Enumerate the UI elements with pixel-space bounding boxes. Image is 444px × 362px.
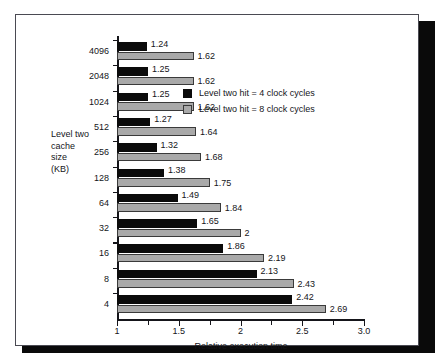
bar-hit8 — [117, 305, 326, 314]
bar-value-label: 1.49 — [182, 190, 200, 200]
x-axis-major-tick — [364, 321, 365, 326]
category-label: 4 — [104, 299, 109, 309]
bar-hit8 — [117, 229, 241, 238]
legend-entry: Level two hit = 8 clock cycles — [183, 104, 315, 114]
x-axis-minor-tick — [148, 321, 149, 325]
bar-hit4 — [117, 93, 148, 102]
bar-value-label: 1.86 — [227, 241, 245, 251]
legend-swatch-light — [183, 105, 192, 114]
bar-group: 20481.251.62 — [117, 65, 407, 88]
legend-entry: Level two hit = 4 clock cycles — [183, 88, 315, 98]
bar-value-label: 2.13 — [261, 266, 279, 276]
y-axis-title: Level twocachesize(KB) — [51, 129, 113, 175]
bar-group: 161.862.19 — [117, 242, 407, 265]
bar-hit4 — [117, 169, 164, 178]
bar-hit4 — [117, 143, 157, 152]
x-axis-minor-tick — [210, 321, 211, 325]
y-axis-tick — [113, 192, 118, 193]
bar-value-label: 1.75 — [214, 178, 232, 188]
bar-chart-plot-area: 40961.241.6220481.251.6210241.251.625121… — [16, 15, 420, 347]
category-label: 4096 — [89, 46, 109, 56]
x-axis-tick-label: 1.5 — [172, 326, 185, 336]
y-axis-title-line: size — [51, 152, 113, 164]
bar-hit4 — [117, 270, 257, 279]
bar-value-label: 1.64 — [200, 127, 218, 137]
x-axis-minor-tick — [271, 321, 272, 325]
bar-value-label: 2.43 — [298, 279, 316, 289]
legend-label: Level two hit = 8 clock cycles — [199, 104, 315, 114]
bar-value-label: 1.68 — [205, 152, 223, 162]
bar-value-label: 2.69 — [330, 304, 348, 314]
bar-value-label: 1.62 — [198, 76, 216, 86]
category-label: 32 — [99, 223, 109, 233]
bar-hit4 — [117, 295, 292, 304]
y-axis-tick — [113, 141, 118, 142]
bar-hit4 — [117, 194, 178, 203]
category-label: 8 — [104, 274, 109, 284]
x-axis-tick-label: 3.0 — [358, 326, 371, 336]
bar-hit4 — [117, 244, 223, 253]
bar-group: 641.491.84 — [117, 192, 407, 215]
bar-group: 40961.241.62 — [117, 40, 407, 63]
y-axis-title-line: (KB) — [51, 164, 113, 176]
category-label: 2048 — [89, 71, 109, 81]
y-axis-title-line: cache — [51, 141, 113, 153]
bar-value-label: 1.27 — [154, 114, 172, 124]
figure-frame: 40961.241.6220481.251.6210241.251.625121… — [15, 14, 419, 346]
bar-group: 42.422.69 — [117, 293, 407, 316]
bar-value-label: 1.62 — [198, 51, 216, 61]
y-axis-tick — [113, 268, 118, 269]
legend-swatch-dark — [183, 89, 192, 98]
y-axis-title-line: Level two — [51, 129, 113, 141]
category-label: 1024 — [89, 97, 109, 107]
bar-value-label: 1.32 — [161, 140, 179, 150]
bar-value-label: 2.19 — [268, 253, 286, 263]
bar-hit4 — [117, 118, 150, 127]
y-axis-tick — [113, 91, 118, 92]
legend-label: Level two hit = 4 clock cycles — [199, 88, 315, 98]
bar-value-label: 1.25 — [152, 64, 170, 74]
bar-value-label: 1.38 — [168, 165, 186, 175]
bar-group: 2561.321.68 — [117, 141, 407, 164]
bar-hit8 — [117, 203, 221, 212]
x-axis-minor-tick — [333, 321, 334, 325]
bar-value-label: 1.65 — [201, 216, 219, 226]
bar-hit8 — [117, 254, 264, 263]
y-axis-tick — [113, 40, 118, 41]
bar-group: 1281.381.75 — [117, 167, 407, 190]
bar-group: 82.132.43 — [117, 268, 407, 291]
x-axis-tick-label: 1 — [114, 326, 119, 336]
y-axis-tick — [113, 242, 118, 243]
bar-hit8 — [117, 178, 210, 187]
bar-hit4 — [117, 42, 147, 51]
x-axis-major-tick — [179, 321, 180, 326]
chart-legend: Level two hit = 4 clock cyclesLevel two … — [183, 88, 315, 120]
bar-hit8 — [117, 52, 194, 61]
category-label: 16 — [99, 248, 109, 258]
x-axis-tick-label: 2.5 — [296, 326, 309, 336]
y-axis-tick — [113, 65, 118, 66]
y-axis-tick — [113, 167, 118, 168]
bar-hit4 — [117, 219, 197, 228]
x-axis-major-tick — [241, 321, 242, 326]
bar-hit8 — [117, 77, 194, 86]
bar-hit8 — [117, 279, 294, 288]
x-axis-title: Relative execution time — [117, 341, 365, 351]
bar-value-label: 1.84 — [225, 203, 243, 213]
bar-hit8 — [117, 127, 196, 136]
bar-value-label: 1.25 — [152, 89, 170, 99]
x-axis-major-tick — [117, 321, 118, 326]
bar-value-label: 2.42 — [296, 292, 314, 302]
category-label: 64 — [99, 198, 109, 208]
bar-value-label: 2 — [245, 228, 250, 238]
x-axis-tick-label: 2 — [238, 326, 243, 336]
x-axis-major-tick — [302, 321, 303, 326]
y-axis-tick — [113, 116, 118, 117]
bar-hit4 — [117, 67, 148, 76]
y-axis-tick — [113, 293, 118, 294]
bar-group: 321.652 — [117, 217, 407, 240]
bar-value-label: 1.24 — [151, 39, 169, 49]
y-axis-tick — [113, 217, 118, 218]
bar-hit8 — [117, 153, 201, 162]
